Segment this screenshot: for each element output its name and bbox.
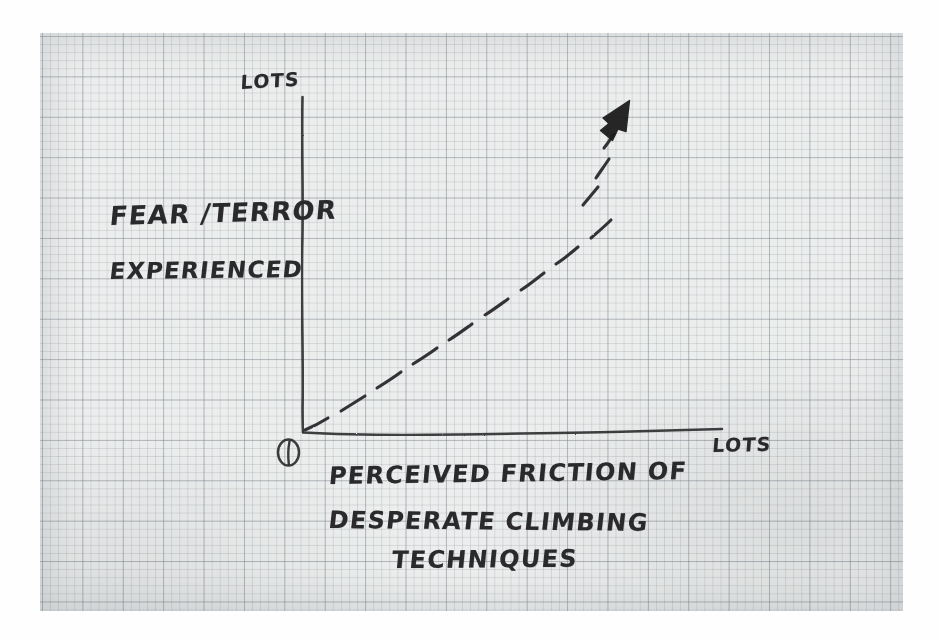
figure-canvas: LOTS LOTS FEAR /TERROR EXPERIENCED PERCE…	[0, 0, 938, 641]
x-axis-max-label: LOTS	[711, 435, 772, 455]
x-axis-title-line-2: DESPERATE CLIMBING	[327, 508, 650, 535]
y-axis-title-line-2: EXPERIENCED	[108, 258, 304, 283]
x-axis-title-line-1: PERCEIVED FRICTION OF	[328, 459, 688, 488]
y-axis-max-label: LOTS	[240, 70, 300, 92]
trend-line-dashed	[305, 134, 614, 430]
trend-arrowhead	[601, 101, 630, 141]
origin-marker	[278, 440, 299, 466]
y-axis-title-line-1: FEAR /TERROR	[109, 197, 339, 229]
x-axis-title-line-3: TECHNIQUES	[391, 547, 579, 572]
x-axis-line	[303, 429, 722, 435]
